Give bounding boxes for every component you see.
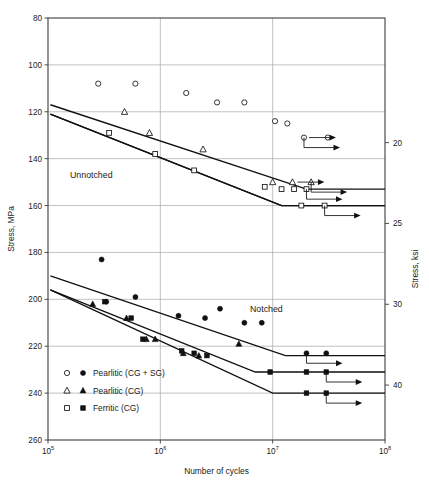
runout-arrow-line xyxy=(325,206,355,216)
y-tick-label-left: 200 xyxy=(28,295,42,304)
data-point-marker xyxy=(192,351,197,356)
y-tick-label-left: 120 xyxy=(28,108,42,117)
data-point-marker xyxy=(203,316,208,321)
y-axis-title-right: Stress, ksi xyxy=(410,250,420,289)
region-annotations: UnnotchedNotched xyxy=(70,170,283,314)
legend-filled-marker xyxy=(81,371,86,376)
y-tick-label-left: 260 xyxy=(28,436,42,445)
data-point-marker xyxy=(292,187,297,192)
fit-line-notched xyxy=(50,276,385,356)
y-tick-label-left: 240 xyxy=(28,389,42,398)
x-axis-title: Number of cycles xyxy=(184,466,249,476)
legend: Pearlitic (CG + SG)Pearlitic (CG)Ferriti… xyxy=(64,368,165,413)
y-tick-label-left: 140 xyxy=(28,155,42,164)
data-point-marker xyxy=(242,320,247,325)
data-points xyxy=(90,81,331,395)
runout-arrow-line xyxy=(326,372,356,382)
runout-arrowhead xyxy=(318,179,325,185)
x-tick-label: 108 xyxy=(379,445,391,456)
data-point-marker xyxy=(102,299,107,304)
data-point-marker xyxy=(262,184,267,189)
data-point-marker xyxy=(90,301,96,307)
data-point-marker xyxy=(200,146,206,152)
y-tick-label-right: 40 xyxy=(393,381,403,390)
data-point-marker xyxy=(279,187,284,192)
y-tick-label-left: 180 xyxy=(28,248,42,257)
x-tick-label: 106 xyxy=(154,445,166,456)
x-tick-label: 105 xyxy=(42,445,54,456)
y-tick-label-left: 80 xyxy=(33,14,43,23)
y-tick-label-right: 20 xyxy=(393,139,403,148)
fatigue-sn-chart-figure: 26024022020018016014012010080Stress, MPa… xyxy=(0,0,429,488)
data-point-marker xyxy=(259,320,264,325)
y-axis-title-left: Stress, MPa xyxy=(6,206,16,252)
data-point-marker xyxy=(299,203,304,208)
runout-arrowhead xyxy=(336,360,343,366)
runout-arrowhead xyxy=(354,213,361,219)
y-tick-label-right: 25 xyxy=(393,219,403,228)
data-point-marker xyxy=(107,130,112,135)
data-point-marker xyxy=(304,391,309,396)
data-point-marker xyxy=(242,100,247,105)
runout-arrowhead xyxy=(356,400,363,406)
data-point-marker xyxy=(146,130,152,136)
data-point-marker xyxy=(285,121,290,126)
data-point-marker xyxy=(184,90,189,95)
y-tick-label-left: 220 xyxy=(28,342,42,351)
data-point-marker xyxy=(99,257,104,262)
notched-label: Notched xyxy=(250,304,283,314)
data-point-marker xyxy=(179,349,184,354)
data-point-marker xyxy=(133,81,138,86)
legend-open-marker xyxy=(64,370,69,375)
runout-arrow-line xyxy=(311,182,341,192)
y-tick-label-right: 30 xyxy=(393,300,403,309)
data-point-marker xyxy=(192,168,197,173)
runout-arrowhead xyxy=(329,135,336,141)
data-point-marker xyxy=(176,313,181,318)
data-point-marker xyxy=(218,306,223,311)
data-point-marker xyxy=(304,370,309,375)
data-point-marker xyxy=(153,152,158,157)
data-point-marker xyxy=(129,316,134,321)
runout-arrowhead xyxy=(341,189,348,195)
legend-item: Pearlitic (CG) xyxy=(64,386,144,396)
legend-item: Pearlitic (CG + SG) xyxy=(64,368,165,378)
runout-arrow-line xyxy=(326,393,356,403)
runout-arrowhead xyxy=(336,196,343,202)
data-point-marker xyxy=(121,108,127,114)
data-point-marker xyxy=(205,353,210,358)
legend-filled-marker xyxy=(80,387,86,393)
runout-arrows xyxy=(297,135,362,406)
runout-arrowhead xyxy=(333,145,340,151)
x-axis: 105106107108Number of cycles xyxy=(42,440,391,476)
legend-item: Ferritic (CG) xyxy=(65,403,140,413)
runout-arrow-line xyxy=(306,353,336,363)
data-point-marker xyxy=(272,119,277,124)
data-point-marker xyxy=(270,179,276,185)
x-tick-label: 107 xyxy=(267,445,279,456)
data-point-marker xyxy=(96,81,101,86)
legend-label: Pearlitic (CG + SG) xyxy=(93,368,165,378)
unnotched-label: Unnotched xyxy=(70,170,113,180)
data-point-marker xyxy=(214,100,219,105)
data-point-marker xyxy=(133,294,138,299)
y-tick-label-left: 160 xyxy=(28,202,42,211)
legend-open-marker xyxy=(64,387,70,393)
y-axis-left: 26024022020018016014012010080Stress, MPa xyxy=(6,14,48,445)
legend-filled-marker xyxy=(81,406,86,411)
data-point-marker xyxy=(236,341,242,347)
y-axis-right: 4030252015Stress, ksi xyxy=(385,0,420,390)
data-point-marker xyxy=(268,370,273,375)
fit-line-notched xyxy=(50,290,385,372)
sn-curve-plot: 26024022020018016014012010080Stress, MPa… xyxy=(0,0,429,488)
data-point-marker xyxy=(141,337,146,342)
y-tick-label-left: 100 xyxy=(28,61,42,70)
runout-arrowhead xyxy=(356,379,363,385)
legend-label: Pearlitic (CG) xyxy=(93,386,143,396)
data-point-marker xyxy=(289,179,295,185)
legend-open-marker xyxy=(65,406,70,411)
legend-label: Ferritic (CG) xyxy=(93,403,139,413)
data-point-marker xyxy=(324,351,329,356)
